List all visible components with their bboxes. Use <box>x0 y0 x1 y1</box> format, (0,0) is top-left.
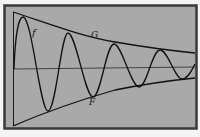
label-f-envelope: F <box>88 97 96 107</box>
damped-oscillation-figure: f G F <box>0 0 200 137</box>
label-g: G <box>91 30 98 40</box>
